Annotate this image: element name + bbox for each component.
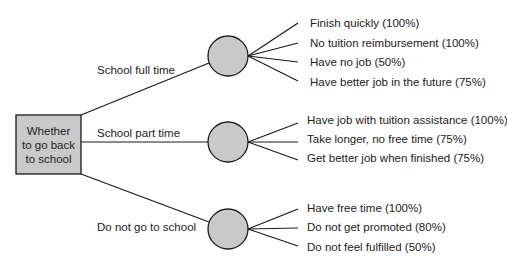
outcome-part-time-1: Have job with tuition assistance (100%) <box>307 114 507 126</box>
decision-tree: Whether to go back to school School full… <box>0 0 507 265</box>
chance-node-no-school <box>208 209 298 249</box>
chance-node-full-time <box>208 23 298 81</box>
outcome-no-school-1: Have free time (100%) <box>307 202 422 214</box>
branch-label-no-school: Do not go to school <box>97 221 196 233</box>
outcome-part-time-3: Get better job when finished (75%) <box>307 152 484 164</box>
branch-line-no-school <box>81 174 209 222</box>
outcome-full-time-2: No tuition reimbursement (100%) <box>310 37 479 49</box>
decision-node: Whether to go back to school <box>16 115 81 174</box>
outcome-no-school-2: Do not get promoted (80%) <box>307 221 446 233</box>
outcome-full-time-1: Finish quickly (100%) <box>310 17 419 29</box>
outcome-full-time-4: Have better job in the future (75%) <box>310 76 486 88</box>
outcome-part-time-2: Take longer, no free time (75%) <box>307 133 467 145</box>
decision-label-line-3: to school <box>25 153 71 165</box>
decision-label-line-2: to go back <box>22 139 75 151</box>
branch-label-full-time: School full time <box>97 64 175 76</box>
chance-node-part-time <box>208 122 298 162</box>
outcome-full-time-3: Have no job (50%) <box>310 56 405 68</box>
outcome-no-school-3: Do not feel fulfilled (50%) <box>307 241 436 253</box>
decision-label-line-1: Whether <box>27 125 71 137</box>
branch-label-part-time: School part time <box>97 127 180 139</box>
